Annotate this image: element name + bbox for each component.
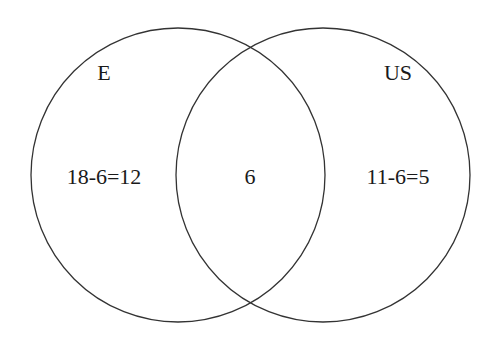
only-us-region-label: 11-6=5 <box>367 164 430 189</box>
intersection-region-label: 6 <box>245 164 256 189</box>
only-e-region-label: 18-6=12 <box>67 164 142 189</box>
venn-diagram: E US 18-6=12 6 11-6=5 <box>0 0 493 346</box>
set-e-label: E <box>97 60 110 85</box>
set-us-label: US <box>384 60 412 85</box>
